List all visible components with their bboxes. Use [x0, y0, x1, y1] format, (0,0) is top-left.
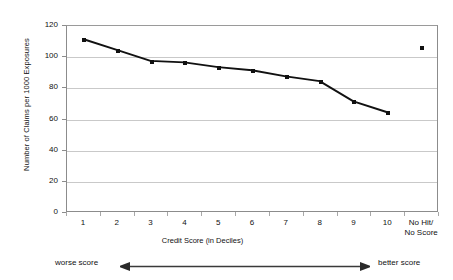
double-arrow-icon — [120, 262, 370, 271]
y-axis-tick-label: 20 — [18, 176, 58, 185]
x-axis-title-text: Credit Score (in Deciles) — [162, 236, 243, 245]
y-axis-tick-label: 100 — [18, 51, 58, 60]
y-axis-tick-label: 120 — [18, 20, 58, 29]
score-direction-annotation: worse score better score — [0, 256, 453, 276]
x-axis-tick — [201, 212, 202, 216]
x-axis-tick — [303, 212, 304, 216]
gridline — [67, 57, 437, 58]
data-point-marker — [386, 111, 390, 115]
x-axis-tick — [404, 212, 405, 216]
no-hit-no-score-marker — [420, 46, 424, 50]
data-point-marker — [183, 61, 187, 65]
worse-score-label: worse score — [55, 258, 98, 267]
x-axis-tick — [134, 212, 135, 216]
data-point-marker — [352, 100, 356, 104]
x-axis-tick — [438, 212, 439, 216]
data-point-marker — [82, 38, 86, 42]
chart-container: Number of Claims per 1000 Exposures 0204… — [0, 0, 453, 280]
data-point-marker — [251, 69, 255, 73]
data-point-marker — [116, 49, 120, 53]
y-axis-tick-label: 40 — [18, 145, 58, 154]
y-axis-tick-label: 80 — [18, 82, 58, 91]
no-hit-line1: No Hit/ — [409, 218, 433, 227]
gridline — [67, 88, 437, 89]
gridline — [67, 151, 437, 152]
data-point-marker — [217, 66, 221, 70]
x-axis-tick — [235, 212, 236, 216]
x-axis-title: Credit Score (in Deciles) — [0, 236, 453, 245]
x-axis-tick — [269, 212, 270, 216]
x-axis-tick-label-no-hit: No Hit/No Score — [391, 218, 451, 238]
data-point-marker — [150, 60, 154, 64]
y-axis-tick-label: 60 — [18, 114, 58, 123]
y-axis-tick-label: 0 — [18, 207, 58, 216]
x-axis-tick — [100, 212, 101, 216]
data-point-marker — [319, 80, 323, 84]
x-axis-tick — [66, 212, 67, 216]
x-axis-tick — [167, 212, 168, 216]
plot-area — [66, 25, 438, 212]
data-point-marker — [285, 75, 289, 79]
better-score-label: better score — [378, 258, 420, 267]
gridline — [67, 182, 437, 183]
gridline — [67, 120, 437, 121]
y-axis-title: Number of Claims per 1000 Exposures — [22, 5, 31, 205]
x-axis-tick — [370, 212, 371, 216]
x-axis-tick — [337, 212, 338, 216]
